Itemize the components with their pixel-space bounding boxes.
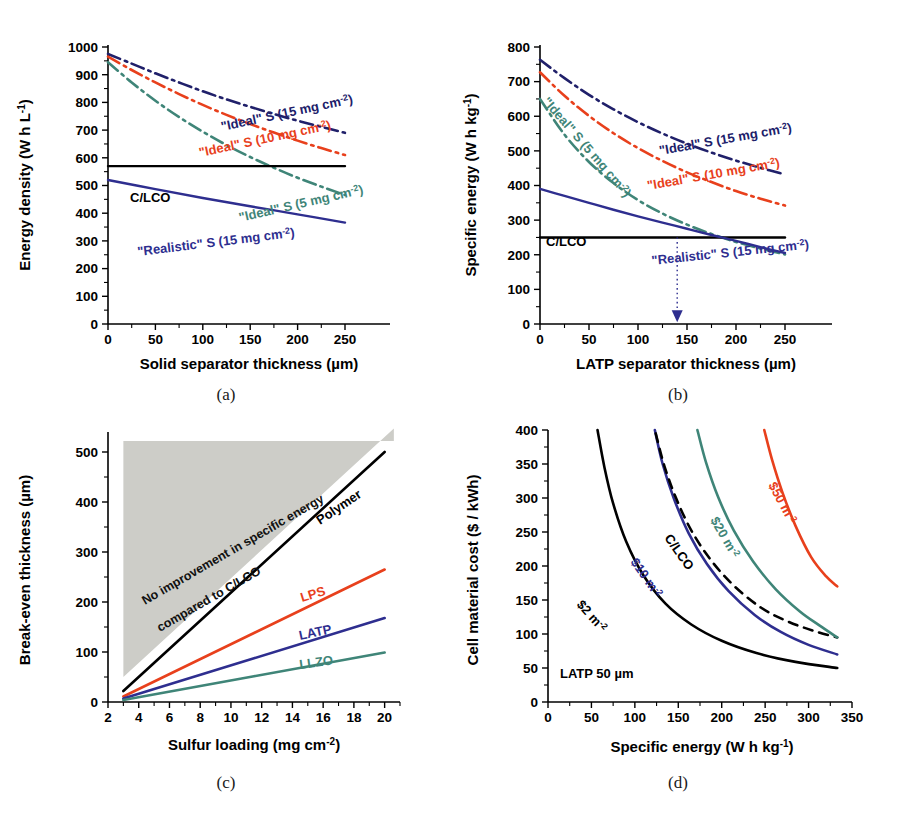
y-tick-label: 300 (75, 545, 98, 560)
curve-label-main: $50 m (765, 479, 796, 519)
panel-b-ylabel: Specific energy (W h kg-1) (462, 93, 479, 276)
curve-label-tail: ) (786, 120, 793, 136)
y-tick-label: 400 (75, 495, 98, 510)
x-tick-label: 18 (346, 710, 362, 725)
panel-d-ylabel: Cell material cost ($ / kWh) (464, 475, 481, 666)
curve-label-main: C/LCO (130, 190, 170, 205)
panel-a-ylabel: Energy density (W h L-1) (16, 99, 33, 270)
x-tick-label: 150 (667, 710, 690, 725)
curve-label-tail: ) (774, 155, 781, 171)
panel-c-svg: 0100200300400500 2468101214161820 Polyme… (0, 410, 452, 821)
y-tick-label: 400 (507, 178, 530, 193)
y-ticks: 01002003004005006007008009001000 (68, 40, 108, 332)
panel-b: 0100200300400500600700800 05010015020025… (452, 0, 904, 410)
x-tick-label: 0 (544, 710, 552, 725)
curve--50-m-2 (764, 430, 837, 586)
y-tick-label: 400 (515, 423, 538, 438)
x-tick-label: 14 (285, 710, 301, 725)
curve-label-tail: ) (325, 117, 332, 133)
panel-c-xlabel: Sulfur loading (mg cm-2) (168, 736, 340, 753)
y-tick-label: 800 (75, 95, 98, 110)
y-tick-label: 200 (75, 595, 98, 610)
annotation-arrowhead-icon (672, 310, 683, 322)
y-tick-label: 200 (75, 261, 98, 276)
x-tick-label: 100 (624, 710, 647, 725)
curve-label--2-m: $2 m-2 (574, 597, 610, 635)
x-tick-label: 300 (797, 710, 820, 725)
x-tick-label: 50 (584, 710, 599, 725)
curve-label--realistic-s-15-mg-cm: "Realistic" S (15 mg cm-2) (137, 225, 296, 259)
x-tick-label: 0 (104, 332, 112, 347)
y-tick-label: 100 (75, 289, 98, 304)
curve-label--10-m: $10 m-2 (628, 555, 666, 600)
panel-d-caption: (d) (668, 773, 688, 792)
panel-a-caption: (a) (217, 385, 236, 404)
x-tick-label: 2 (104, 710, 112, 725)
y-tick-label: 300 (507, 213, 530, 228)
y-tick-label: 350 (515, 457, 538, 472)
y-tick-label: 100 (515, 627, 538, 642)
curve-label-tail: ) (289, 225, 295, 240)
panel-b-svg: 0100200300400500600700800 05010015020025… (452, 0, 904, 410)
x-tick-label: 12 (254, 710, 269, 725)
x-tick-label: 8 (196, 710, 204, 725)
panel-a: 01002003004005006007008009001000 0501001… (0, 0, 452, 410)
x-tick-label: 350 (841, 710, 864, 725)
y-tick-label: 600 (75, 151, 98, 166)
y-tick-label: 500 (75, 178, 98, 193)
x-tick-label: 250 (334, 332, 357, 347)
y-tick-label: 700 (75, 123, 98, 138)
y-ticks: 0100200300400500600700800 (507, 40, 540, 332)
x-tick-label: 50 (148, 332, 163, 347)
x-tick-label: 100 (192, 332, 215, 347)
panel-d-xlabel: Specific energy (W h kg-1) (610, 738, 793, 755)
x-tick-label: 200 (725, 332, 748, 347)
panel-d-svg: 050100150200250300350400 050100150200250… (452, 410, 904, 821)
x-tick-label: 0 (536, 332, 544, 347)
x-ticks: 050100150200250 (536, 324, 796, 347)
y-tick-label: 500 (507, 144, 530, 159)
x-tick-label: 16 (316, 710, 332, 725)
y-tick-label: 800 (507, 40, 530, 55)
x-tick-label: 250 (774, 332, 797, 347)
y-tick-label: 150 (515, 593, 538, 608)
y-tick-label: 700 (507, 74, 530, 89)
y-tick-label: 50 (523, 661, 538, 676)
x-ticks: 050100150200250300350 (544, 702, 863, 725)
panel-a-svg: 01002003004005006007008009001000 0501001… (0, 0, 452, 410)
y-ticks: 0100200300400500 (75, 445, 108, 710)
curve-label-tail: ) (347, 91, 354, 107)
x-tick-label: 150 (676, 332, 699, 347)
curve-label-tail: ) (804, 237, 810, 252)
x-tick-label: 200 (286, 332, 309, 347)
panel-a-xlabel: Solid separator thickness (µm) (140, 355, 359, 372)
y-tick-label: 300 (515, 491, 538, 506)
curve-label--ideal-s-10-mg-cm: "Ideal" S (10 mg cm-2) (646, 155, 781, 193)
curve-label-main: C/LCO (546, 234, 586, 249)
y-tick-label: 250 (515, 525, 538, 540)
y-tick-label: 600 (507, 109, 530, 124)
panel-d-curves (598, 430, 838, 668)
y-tick-label: 0 (530, 695, 538, 710)
x-tick-label: 6 (166, 710, 174, 725)
panel-c-shaded-region (123, 429, 393, 703)
panel-c-ylabel: Break-even thickness (µm) (16, 475, 33, 665)
panel-b-curve-labels: "Ideal" S (15 mg cm-2)"Ideal" S (10 mg c… (540, 94, 810, 268)
x-tick-label: 200 (710, 710, 733, 725)
x-tick-label: 250 (754, 710, 777, 725)
curve-label--ideal-s-5-mg-cm: "Ideal" S (5 mg cm-2) (540, 94, 635, 200)
y-tick-label: 100 (75, 645, 98, 660)
x-tick-label: 50 (581, 332, 596, 347)
curve--2-m-2 (598, 430, 838, 668)
curve-label--ideal-s-15-mg-cm: "Ideal" S (15 mg cm-2) (658, 120, 793, 158)
x-tick-label: 10 (223, 710, 238, 725)
curve-label-main: "Realistic" S (15 mg cm (651, 238, 798, 268)
curve-label-c-lco: C/LCO (546, 234, 586, 249)
curve-label-tail: ) (357, 182, 365, 198)
y-ticks: 050100150200250300350400 (515, 423, 548, 710)
curve-label-main: "Ideal" S (5 mg cm (237, 184, 352, 224)
y-tick-label: 100 (507, 282, 530, 297)
x-tick-label: 4 (135, 710, 143, 725)
figure-container: 01002003004005006007008009001000 0501001… (0, 0, 904, 821)
y-tick-label: 500 (75, 445, 98, 460)
